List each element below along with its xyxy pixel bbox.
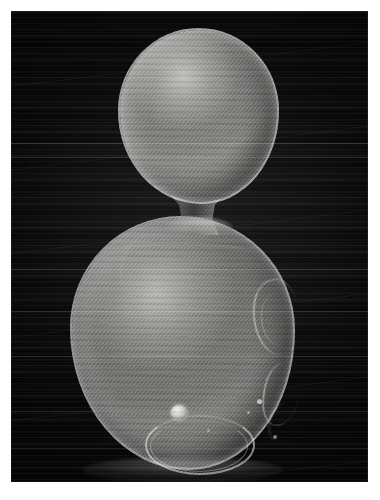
- micrograph-page: Budding yeast cell Scanning electron mic…: [0, 0, 380, 500]
- raster-glitch-line-6: [11, 411, 368, 412]
- raster-glitch-line-4: [11, 311, 368, 312]
- micrograph-plate: [11, 11, 368, 482]
- raster-glitch-line-1: [11, 143, 368, 144]
- raster-glitch-line-7: [11, 448, 368, 449]
- raster-glitch-line-3: [11, 269, 368, 270]
- raster-glitch-line-2: [11, 157, 368, 158]
- raster-glitch-line-5: [11, 356, 368, 357]
